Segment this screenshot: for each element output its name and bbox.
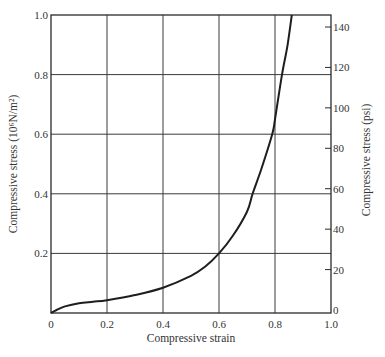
y-axis-right-ticks: 020406080100120140 (325, 21, 350, 316)
y-tick-label: 0.4 (34, 188, 48, 200)
y-axis-left-label: Compressive stress (10⁶N/m²) (7, 95, 20, 234)
x-axis-label: Compressive strain (147, 332, 236, 345)
y-tick-label: 1.0 (34, 9, 48, 21)
y-axis-left-ticks: 0.20.40.60.81.0 (34, 9, 48, 259)
x-tick-label: 0.4 (156, 318, 170, 330)
y2-tick-label: 80 (333, 142, 345, 154)
stress-strain-curve (51, 15, 292, 313)
x-tick-label: 0 (48, 318, 54, 330)
y2-tick-label: 0 (333, 304, 339, 316)
x-axis-ticks: 00.20.40.60.81.0 (48, 318, 338, 330)
y2-tick-label: 40 (333, 223, 345, 235)
y2-tick-label: 60 (333, 183, 345, 195)
plot-frame (51, 15, 331, 313)
y2-tick-label: 120 (333, 61, 350, 73)
y-tick-label: 0.6 (34, 128, 48, 140)
y2-tick-label: 20 (333, 264, 345, 276)
x-tick-label: 0.6 (212, 318, 226, 330)
x-tick-label: 1.0 (324, 318, 338, 330)
x-tick-label: 0.2 (100, 318, 114, 330)
y2-tick-label: 140 (333, 21, 350, 33)
x-tick-label: 0.8 (268, 318, 282, 330)
y2-tick-label: 100 (333, 102, 350, 114)
y-tick-label: 0.2 (34, 247, 48, 259)
y-tick-label: 0.8 (34, 69, 48, 81)
y-axis-right-label: Compressive stress (psi) (360, 104, 373, 217)
stress-strain-chart: 00.20.40.60.81.0 0.20.40.60.81.0 0204060… (0, 0, 385, 357)
grid-lines (51, 15, 331, 313)
